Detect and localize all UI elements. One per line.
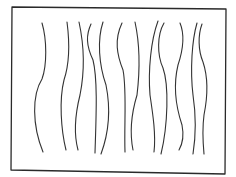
sketch-canvas xyxy=(0,0,236,177)
